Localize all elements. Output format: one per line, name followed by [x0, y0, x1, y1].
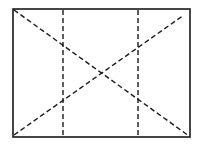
diagonal-up-line — [14, 15, 184, 135]
dashed-lines-group — [14, 10, 189, 136]
sketch-diagram — [0, 0, 198, 144]
